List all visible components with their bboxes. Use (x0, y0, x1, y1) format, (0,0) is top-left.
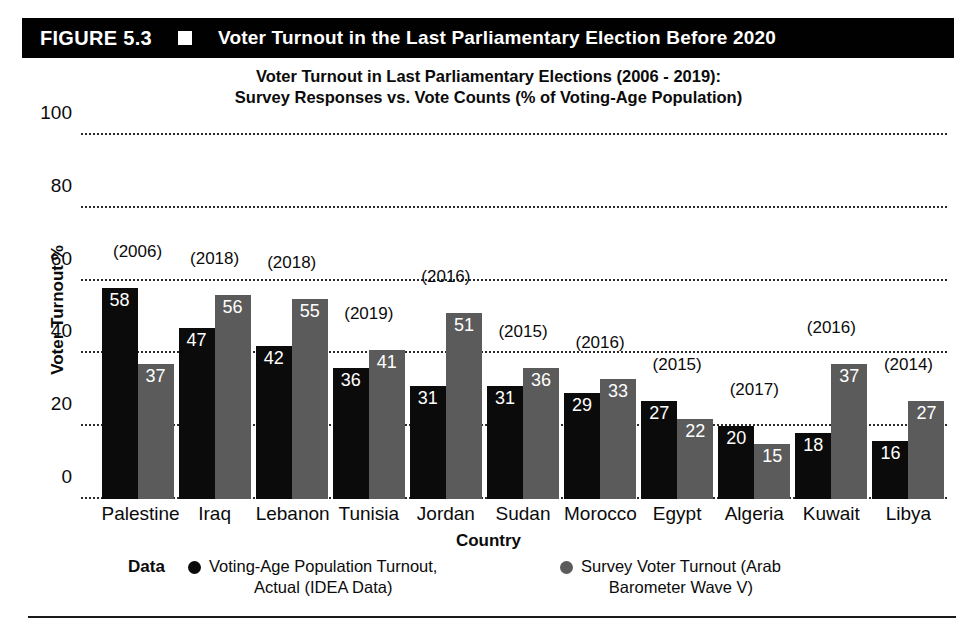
bar-actual[interactable]: 16 (872, 441, 908, 499)
year-annotation: (2015) (641, 355, 713, 375)
bar-survey[interactable]: 55 (292, 299, 328, 499)
year-annotation: (2015) (487, 322, 559, 342)
plot-area: 5837(2006)4756(2018)4255(2018)3641(2019)… (99, 135, 947, 499)
year-annotation: (2016) (564, 333, 636, 353)
legend-label-actual-line1: Voting-Age Population Turnout, (209, 557, 437, 575)
bar-group: 2933(2016) (564, 135, 636, 499)
bar-survey[interactable]: 37 (831, 364, 867, 499)
legend-marker-gray-circle-icon (560, 561, 573, 574)
year-annotation: (2016) (410, 267, 482, 287)
bar-value-label: 29 (564, 395, 600, 416)
bar-group: 4756(2018) (179, 135, 251, 499)
bar-value-label: 47 (179, 330, 215, 351)
x-axis-tick-labels: PalestineIraqLebanonTunisiaJordanSudanMo… (99, 503, 947, 531)
bar-actual[interactable]: 58 (102, 288, 138, 499)
bar-value-label: 42 (256, 348, 292, 369)
year-annotation: (2019) (333, 304, 405, 324)
bar-actual[interactable]: 18 (795, 433, 831, 499)
bar-actual[interactable]: 31 (487, 386, 523, 499)
bar-group: 2722(2015) (641, 135, 713, 499)
legend-label-actual-line2: Actual (IDEA Data) (254, 578, 392, 596)
bar-survey[interactable]: 22 (677, 419, 713, 499)
y-tick-20: 20 (24, 393, 72, 415)
bar-actual[interactable]: 27 (641, 401, 677, 499)
x-tick-algeria: Algeria (718, 503, 790, 525)
x-tick-egypt: Egypt (641, 503, 713, 525)
x-tick-lebanon: Lebanon (256, 503, 328, 525)
bar-value-label: 56 (215, 297, 251, 318)
x-tick-morocco: Morocco (564, 503, 636, 525)
y-tick-60: 60 (24, 248, 72, 270)
y-axis-tick-labels: 020406080100 (24, 135, 72, 499)
bar-value-label: 15 (754, 446, 790, 467)
bar-value-label: 22 (677, 421, 713, 442)
bar-survey[interactable]: 56 (215, 295, 251, 499)
year-annotation: (2016) (795, 318, 867, 338)
year-annotation: (2018) (256, 253, 328, 273)
year-annotation: (2017) (718, 380, 790, 400)
bar-value-label: 51 (446, 315, 482, 336)
y-tick-80: 80 (24, 175, 72, 197)
y-tick-0: 0 (24, 466, 72, 488)
bar-actual[interactable]: 47 (179, 328, 215, 499)
legend-label-actual: Voting-Age Population Turnout, Actual (I… (209, 556, 437, 598)
bar-value-label: 37 (831, 366, 867, 387)
bar-group: 3136(2015) (487, 135, 559, 499)
bar-actual[interactable]: 36 (333, 368, 369, 499)
bar-value-label: 18 (795, 435, 831, 456)
legend-label-survey-line2: Barometer Wave V) (609, 578, 753, 596)
legend-label-survey: Survey Voter Turnout (Arab Barometer Wav… (581, 556, 781, 598)
bottom-divider (28, 616, 956, 618)
bar-group: 3151(2016) (410, 135, 482, 499)
y-tick-100: 100 (24, 102, 72, 124)
x-tick-tunisia: Tunisia (333, 503, 405, 525)
bar-survey[interactable]: 37 (138, 364, 174, 499)
legend-title: Data (128, 557, 165, 577)
bar-survey[interactable]: 27 (908, 401, 944, 499)
bar-actual[interactable]: 29 (564, 393, 600, 499)
bar-value-label: 41 (369, 352, 405, 373)
bar-survey[interactable]: 51 (446, 313, 482, 499)
bar-value-label: 27 (908, 403, 944, 424)
legend-marker-black-circle-icon (188, 561, 201, 574)
bar-group: 2015(2017) (718, 135, 790, 499)
legend-label-survey-line1: Survey Voter Turnout (Arab (581, 557, 781, 575)
bar-group: 1627(2014) (872, 135, 944, 499)
x-tick-libya: Libya (872, 503, 944, 525)
bar-value-label: 58 (102, 290, 138, 311)
x-tick-sudan: Sudan (487, 503, 559, 525)
bar-survey[interactable]: 36 (523, 368, 559, 499)
chart-plot-wrapper: Voter Turnout % 020406080100 5837(2006)4… (0, 0, 977, 636)
bar-survey[interactable]: 33 (600, 379, 636, 499)
bar-value-label: 16 (872, 443, 908, 464)
bar-value-label: 33 (600, 381, 636, 402)
bar-survey[interactable]: 15 (754, 444, 790, 499)
bar-value-label: 31 (410, 388, 446, 409)
bar-group: 5837(2006) (102, 135, 174, 499)
x-tick-jordan: Jordan (410, 503, 482, 525)
bar-value-label: 20 (718, 428, 754, 449)
y-tick-40: 40 (24, 320, 72, 342)
year-annotation: (2006) (102, 242, 174, 262)
bar-actual[interactable]: 31 (410, 386, 446, 499)
x-axis-title: Country (0, 531, 977, 551)
x-tick-iraq: Iraq (179, 503, 251, 525)
bar-actual[interactable]: 42 (256, 346, 292, 499)
year-annotation: (2018) (179, 249, 251, 269)
bar-value-label: 55 (292, 301, 328, 322)
year-annotation: (2014) (872, 355, 944, 375)
bar-value-label: 27 (641, 403, 677, 424)
bar-value-label: 37 (138, 366, 174, 387)
bar-survey[interactable]: 41 (369, 350, 405, 499)
bar-actual[interactable]: 20 (718, 426, 754, 499)
bar-group: 1837(2016) (795, 135, 867, 499)
bar-value-label: 36 (523, 370, 559, 391)
x-tick-palestine: Palestine (102, 503, 174, 525)
legend-item-survey: Survey Voter Turnout (Arab Barometer Wav… (560, 556, 860, 598)
bar-value-label: 31 (487, 388, 523, 409)
x-tick-kuwait: Kuwait (795, 503, 867, 525)
bar-value-label: 36 (333, 370, 369, 391)
legend-item-actual: Voting-Age Population Turnout, Actual (I… (188, 556, 488, 598)
bar-group: 3641(2019) (333, 135, 405, 499)
bar-group: 4255(2018) (256, 135, 328, 499)
